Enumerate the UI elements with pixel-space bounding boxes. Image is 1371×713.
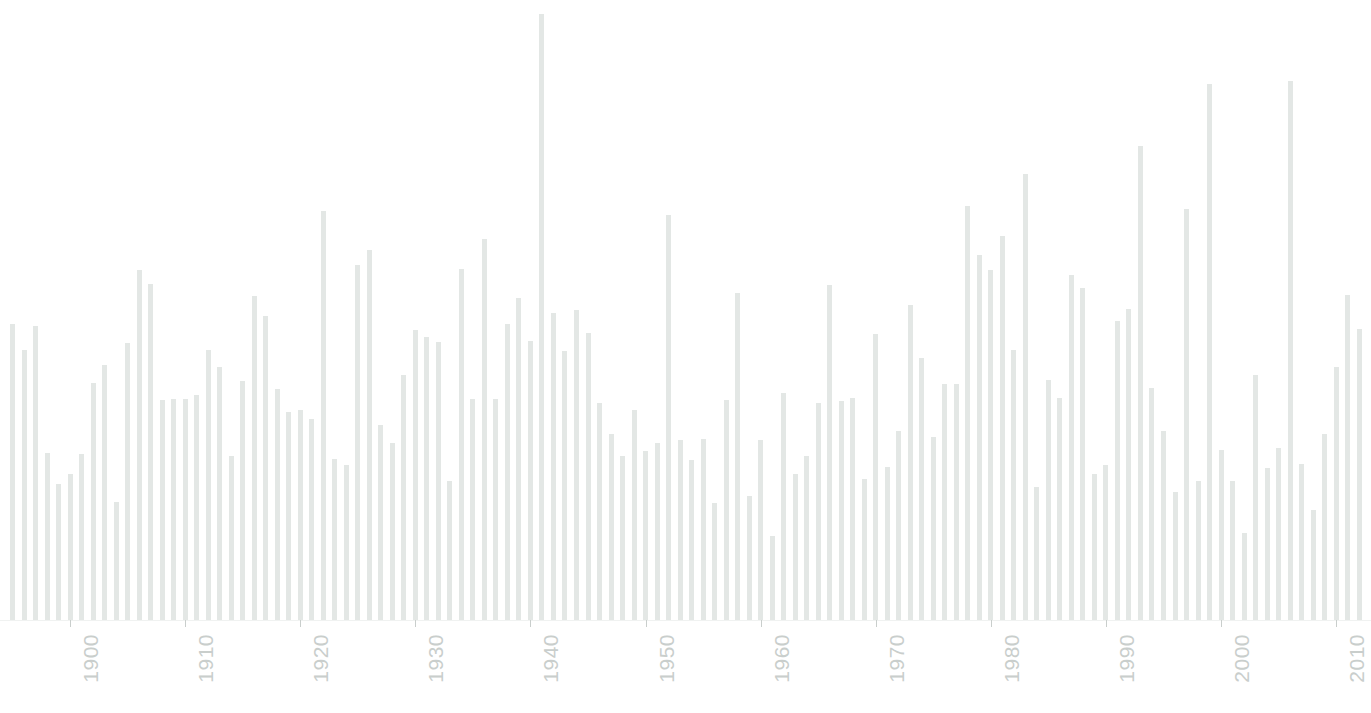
axis-tick-label: 2000 <box>1230 634 1254 683</box>
bar <box>424 337 429 620</box>
axis-tick-label: 1990 <box>1115 634 1139 683</box>
bar-chart: 1900191019201930194019501960197019801990… <box>0 0 1371 713</box>
bar <box>1207 84 1212 620</box>
axis-tick-label: 1950 <box>655 634 679 683</box>
bar <box>908 305 913 620</box>
axis-tick <box>300 620 301 627</box>
bar <box>148 284 153 620</box>
axis-tick <box>646 620 647 627</box>
axis-tick <box>70 620 71 627</box>
bar <box>102 365 107 620</box>
plot-area <box>0 0 1371 620</box>
bar <box>1265 468 1270 620</box>
bar <box>436 342 441 620</box>
axis-tick-label: 1960 <box>770 634 794 683</box>
bar <box>632 410 637 620</box>
bar <box>574 310 579 620</box>
bar <box>988 270 993 620</box>
axis-tick-label: 1970 <box>885 634 909 683</box>
bar <box>839 401 844 620</box>
bar <box>160 400 165 620</box>
axis-tick <box>530 620 531 627</box>
bar <box>114 502 119 620</box>
axis-tick <box>761 620 762 627</box>
axis-tick-label: 2010 <box>1345 634 1369 683</box>
bar <box>770 536 775 620</box>
bar <box>942 384 947 620</box>
bar <box>919 358 924 620</box>
bar <box>183 399 188 620</box>
bar <box>643 451 648 620</box>
bar <box>1253 375 1258 620</box>
bar <box>1115 321 1120 620</box>
bar <box>45 453 50 620</box>
bar <box>1299 464 1304 620</box>
bar <box>1080 288 1085 620</box>
bar <box>1138 146 1143 620</box>
axis-tick-label: 1980 <box>1000 634 1024 683</box>
axis-tick <box>876 620 877 627</box>
bar <box>355 265 360 620</box>
bar <box>125 343 130 620</box>
bar <box>1230 481 1235 621</box>
axis-tick <box>1106 620 1107 627</box>
bar <box>896 431 901 620</box>
bar <box>91 383 96 620</box>
bar <box>1357 329 1362 620</box>
bar <box>804 456 809 620</box>
bar <box>206 350 211 620</box>
bar <box>666 215 671 620</box>
bar <box>701 439 706 620</box>
axis-baseline <box>0 620 1371 621</box>
bar <box>1046 380 1051 620</box>
x-axis: 1900191019201930194019501960197019801990… <box>0 620 1371 713</box>
bar <box>56 484 61 620</box>
bar <box>586 333 591 620</box>
bar <box>528 341 533 620</box>
bar <box>1149 388 1154 621</box>
bar <box>263 316 268 620</box>
bar <box>1276 448 1281 620</box>
axis-tick <box>1336 620 1337 627</box>
bar <box>1034 487 1039 620</box>
bar <box>252 296 257 620</box>
bar <box>678 440 683 620</box>
bar <box>885 467 890 620</box>
axis-tick-label: 1920 <box>309 634 333 683</box>
bar <box>1196 481 1201 621</box>
bar <box>977 255 982 620</box>
bar <box>33 326 38 620</box>
bar <box>332 459 337 620</box>
bar <box>597 403 602 620</box>
bar <box>1126 309 1131 620</box>
bar <box>931 437 936 620</box>
bar <box>1184 209 1189 620</box>
bar <box>873 334 878 620</box>
bar <box>781 393 786 620</box>
bar <box>539 14 544 620</box>
bar <box>1219 450 1224 621</box>
bar <box>493 399 498 620</box>
axis-tick-label: 1900 <box>79 634 103 683</box>
bar <box>505 324 510 620</box>
bar <box>827 285 832 620</box>
bar <box>229 456 234 620</box>
bar <box>1322 434 1327 620</box>
bar <box>275 389 280 620</box>
bar <box>1311 510 1316 620</box>
bar <box>68 474 73 620</box>
bar <box>551 313 556 620</box>
bar <box>298 410 303 620</box>
bar <box>447 481 452 621</box>
bar <box>1092 474 1097 620</box>
bar <box>689 460 694 620</box>
bar <box>240 381 245 620</box>
bar <box>10 324 15 620</box>
bar <box>620 456 625 620</box>
bar <box>401 375 406 620</box>
axis-tick <box>415 620 416 627</box>
bar <box>655 443 660 620</box>
bar <box>413 330 418 620</box>
bar <box>217 367 222 620</box>
bar <box>286 412 291 620</box>
